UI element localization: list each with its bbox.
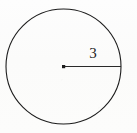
- diagram-canvas: [0, 0, 137, 133]
- circle-radius-diagram: 3: [0, 0, 137, 133]
- center-point-dot: [62, 65, 65, 68]
- radius-length-label: 3: [86, 46, 100, 61]
